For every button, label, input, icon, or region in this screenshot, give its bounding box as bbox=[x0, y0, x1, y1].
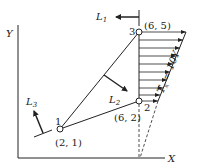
L3-label: L3 bbox=[25, 96, 38, 109]
L2-label: L2 bbox=[108, 94, 121, 107]
L1-label: L1 bbox=[95, 11, 107, 24]
y-axis-label: Y bbox=[6, 28, 14, 39]
node-1-coord: (2, 1) bbox=[55, 137, 82, 148]
node-3-coord: (6, 5) bbox=[144, 20, 171, 31]
element-diagram: Y X Tx = 10Y L1 bbox=[0, 0, 199, 167]
node-3 bbox=[136, 29, 142, 35]
node-2-coord: (6, 2) bbox=[114, 112, 141, 123]
traction-load: Tx = 10Y bbox=[139, 32, 186, 101]
x-axis-label: X bbox=[167, 153, 176, 164]
L3-normal-arrow bbox=[34, 111, 43, 133]
axes: Y X bbox=[6, 25, 176, 164]
node-1-label: 1 bbox=[55, 116, 61, 127]
L2-normal-arrow bbox=[104, 75, 127, 91]
node-3-label: 3 bbox=[129, 26, 135, 37]
nodes: 1 (2, 1) 2 (6, 2) 3 (6, 5) bbox=[55, 20, 171, 148]
node-2 bbox=[136, 98, 142, 104]
node-2-label: 2 bbox=[144, 102, 150, 113]
